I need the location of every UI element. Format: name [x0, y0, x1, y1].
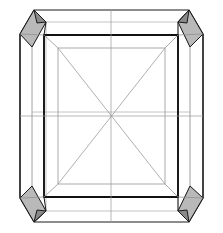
inner-construction-group: [20, 10, 203, 222]
wedge-bottom-right: [178, 210, 189, 222]
top-left-bevel-facet: [20, 10, 46, 47]
truncated-cube-diagram: [0, 0, 223, 233]
figure-container: [0, 0, 223, 233]
bottom-left-bevel-facet: [20, 186, 46, 222]
wedge-top-right: [178, 10, 189, 23]
bottom-right-bevel-facet: [178, 186, 203, 222]
inner-corner-link-tr: [165, 35, 178, 48]
top-right-bevel-facet: [178, 10, 203, 47]
inner-corner-link-br: [165, 184, 178, 197]
